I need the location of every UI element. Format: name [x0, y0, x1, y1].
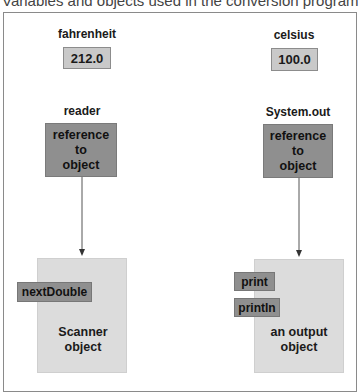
object-label-output: an output object	[262, 325, 336, 355]
object-label-line: an output	[262, 325, 336, 340]
method-label: print	[241, 275, 268, 289]
arrowhead-icon	[296, 250, 302, 257]
method-println: println	[234, 298, 280, 317]
object-label-line: Scanner	[47, 325, 119, 340]
method-nextdouble: nextDouble	[17, 282, 92, 302]
object-box-scanner	[37, 258, 127, 373]
arrowhead-icon	[79, 249, 85, 256]
object-label-scanner: Scanner object	[47, 325, 119, 355]
method-print: print	[234, 272, 275, 291]
object-label-line: object	[262, 340, 336, 355]
method-label: println	[238, 301, 275, 315]
method-label: nextDouble	[22, 285, 87, 299]
object-label-line: object	[47, 340, 119, 355]
